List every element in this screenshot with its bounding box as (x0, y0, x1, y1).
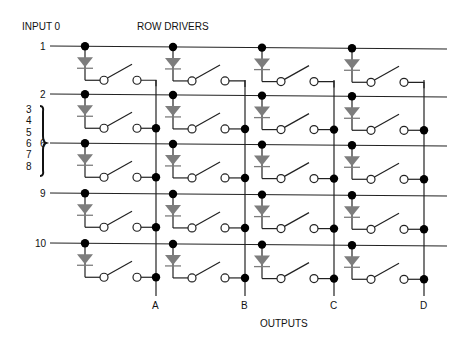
switch-blade (195, 212, 220, 226)
switch-contact (367, 126, 375, 134)
junction-dot (152, 273, 160, 281)
row-label-10: 10 (35, 238, 47, 249)
row-label-8: 8 (26, 161, 32, 172)
diode-icon (254, 59, 270, 69)
output-label-c: C (330, 300, 337, 311)
row-node-dot (258, 240, 266, 248)
row-node-dot (258, 91, 266, 99)
switch-contact (277, 126, 285, 134)
row-node-dot (348, 191, 356, 199)
diode-icon (165, 155, 181, 165)
diode-icon (165, 58, 181, 68)
switch-contact (277, 275, 285, 283)
junction-dot (241, 224, 249, 232)
switch-contact (133, 173, 141, 181)
switch-contact (277, 175, 285, 183)
row-line-6 (50, 143, 447, 146)
switch-contact (100, 124, 108, 132)
row-label-3: 3 (26, 104, 32, 115)
row-node-dot (169, 190, 177, 198)
diode-icon (254, 206, 270, 216)
switch-contact (221, 77, 229, 85)
row-node-dot (258, 43, 266, 51)
switch-contact (133, 273, 141, 281)
switch-contact (400, 225, 408, 233)
row-node-dot (81, 42, 89, 50)
junction-dot (330, 125, 338, 133)
output-label-d: D (420, 300, 427, 311)
row-line-2 (50, 94, 447, 97)
junction-dot (420, 225, 428, 233)
diode-icon (165, 255, 181, 265)
switch-contact (400, 78, 408, 86)
row-label-4: 4 (26, 115, 32, 126)
diode-icon (165, 205, 181, 215)
switch-contact (277, 78, 285, 86)
output-tap (408, 82, 424, 88)
switch-contact (221, 224, 229, 232)
switch-contact (367, 175, 375, 183)
switch-blade (195, 113, 220, 127)
switch-blade (284, 66, 309, 80)
switch-contact (277, 225, 285, 233)
junction-dot (420, 275, 428, 283)
switch-contact (188, 174, 196, 182)
switch-contact (188, 77, 196, 85)
diode-icon (77, 254, 93, 264)
row-node-dot (169, 140, 177, 148)
output-label-b: B (241, 300, 248, 311)
row-node-dot (258, 140, 266, 148)
junction-dot (152, 223, 160, 231)
input-label: INPUT 0 (22, 21, 61, 32)
junction-dot (330, 174, 338, 182)
switch-contact (310, 126, 318, 134)
switch-contact (367, 275, 375, 283)
switch-contact (188, 274, 196, 282)
switch-blade (107, 64, 132, 78)
diode-icon (77, 154, 93, 164)
switch-contact (310, 78, 318, 86)
switch-blade (195, 262, 220, 276)
switch-contact (133, 76, 141, 84)
switch-blade (107, 112, 132, 126)
junction-dot (420, 175, 428, 183)
row-line-9 (50, 193, 447, 196)
diode-icon (77, 204, 93, 214)
row-label-9: 9 (40, 188, 46, 199)
junction-dot (330, 224, 338, 232)
switch-blade (107, 161, 132, 175)
switch-contact (100, 173, 108, 181)
output-tap (141, 80, 156, 86)
row-node-dot (348, 92, 356, 100)
junction-dot (241, 274, 249, 282)
switch-contact (367, 78, 375, 86)
row-node-dot (81, 189, 89, 197)
switch-contact (400, 126, 408, 134)
row-node-dot (81, 90, 89, 98)
diode-icon (344, 59, 360, 69)
row-label-7: 7 (26, 149, 32, 160)
junction-dot (241, 174, 249, 182)
row-node-dot (348, 44, 356, 52)
outputs-label: OUTPUTS (260, 318, 308, 329)
switch-contact (310, 225, 318, 233)
diode-icon (344, 206, 360, 216)
junction-dot (241, 125, 249, 133)
switch-contact (367, 225, 375, 233)
switch-blade (374, 213, 399, 227)
switch-blade (374, 163, 399, 177)
diode-icon (165, 106, 181, 116)
row-label-1: 1 (40, 41, 46, 52)
row-node-dot (169, 91, 177, 99)
diode-icon (344, 256, 360, 266)
switch-contact (221, 125, 229, 133)
row-node-dot (348, 141, 356, 149)
diode-icon (344, 156, 360, 166)
row-line-10 (50, 243, 447, 246)
row-node-dot (169, 43, 177, 51)
output-label-a: A (152, 300, 159, 311)
switch-blade (195, 65, 220, 79)
switch-contact (310, 275, 318, 283)
row-line-1 (50, 46, 447, 49)
switch-blade (284, 263, 309, 277)
